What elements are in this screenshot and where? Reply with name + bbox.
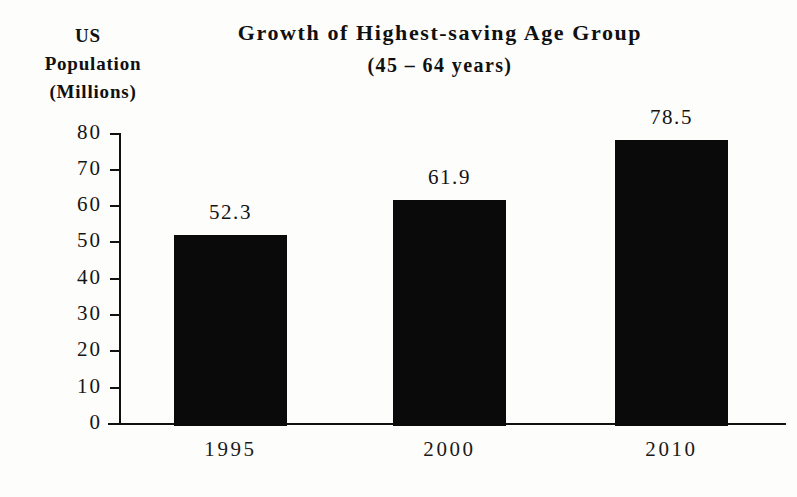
bar-value-label: 61.9	[428, 167, 471, 188]
x-axis-category-label: 1995	[174, 438, 287, 460]
y-axis-tick: 50	[110, 241, 121, 243]
y-axis-tick: 0	[110, 423, 121, 425]
y-axis-tick-label: 10	[77, 376, 102, 397]
y-axis-tick: 40	[110, 278, 121, 280]
bar-2010[interactable]: 78.5	[615, 140, 728, 427]
y-axis-tick-label: 50	[77, 230, 102, 251]
y-axis-tick: 80	[110, 133, 121, 135]
y-axis-tick-label: 70	[77, 158, 102, 179]
x-axis-category-label: 2000	[393, 438, 506, 460]
y-axis-tick: 70	[110, 169, 121, 171]
y-axis-tick-label: 30	[77, 303, 102, 324]
bar-2000[interactable]: 61.9	[393, 200, 506, 426]
chart-title-block: Growth of Highest-saving Age Group (45 –…	[180, 20, 700, 78]
bar-1995[interactable]: 52.3	[174, 235, 287, 426]
y-axis-label-line-2: Population	[10, 50, 176, 78]
y-axis-label-line-1: US	[10, 22, 176, 50]
bar-value-label: 78.5	[650, 107, 693, 128]
y-axis-tick-label: 80	[77, 122, 102, 143]
y-axis-tick: 60	[110, 205, 121, 207]
y-axis-tick-label: 20	[77, 339, 102, 360]
y-axis-tick-label: 0	[90, 412, 103, 433]
y-axis-label-line-3: (Millions)	[10, 78, 176, 106]
y-axis-tick-label: 40	[77, 267, 102, 288]
y-axis-tick: 20	[110, 350, 121, 352]
y-axis-tick: 30	[110, 314, 121, 316]
x-axis-category-label: 2010	[615, 438, 728, 460]
y-axis-tick: 10	[110, 387, 121, 389]
chart-figure: Growth of Highest-saving Age Group (45 –…	[0, 0, 797, 497]
bar-value-label: 52.3	[209, 202, 252, 223]
y-axis-tick-label: 60	[77, 194, 102, 215]
y-axis-label: US Population (Millions)	[10, 22, 176, 106]
plot-area: 80 70 60 50 40 30 20 10 0 52.3 61.	[108, 128, 788, 428]
chart-title: Growth of Highest-saving Age Group	[180, 20, 700, 46]
chart-subtitle: (45 – 64 years)	[180, 52, 700, 78]
